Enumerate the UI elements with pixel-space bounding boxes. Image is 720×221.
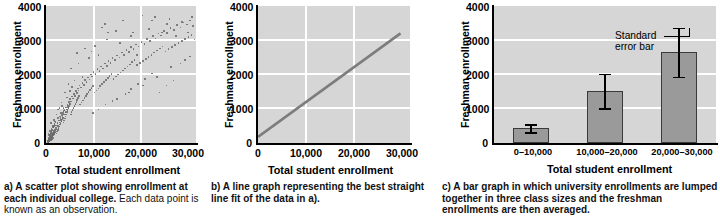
- scatter-point: [176, 24, 178, 26]
- scatter-point: [96, 90, 98, 92]
- scatter-point: [78, 63, 80, 65]
- scatter-point: [112, 57, 114, 59]
- scatter-point: [81, 102, 83, 104]
- scatter-point: [75, 103, 77, 105]
- scatter-point: [159, 92, 161, 94]
- scatter-point: [61, 120, 63, 122]
- scatter-point: [123, 54, 125, 56]
- scatter-point: [76, 99, 78, 101]
- scatter-point: [77, 97, 79, 99]
- panel-a-xtick-30000: 30,000: [164, 148, 212, 159]
- scatter-point: [107, 77, 109, 79]
- scatter-point: [68, 107, 70, 109]
- scatter-point: [124, 68, 126, 70]
- scatter-point: [103, 81, 105, 83]
- scatter-point: [137, 83, 139, 85]
- scatter-point: [192, 25, 194, 27]
- panel-b-xtick-20000: 20,000: [330, 148, 378, 159]
- scatter-point: [63, 122, 65, 124]
- scatter-point: [53, 130, 55, 132]
- scatter-point: [121, 52, 123, 54]
- scatter-point: [50, 122, 52, 124]
- scatter-point: [188, 36, 190, 38]
- scatter-point: [54, 133, 56, 135]
- error-bar-cap-1-bottom: [599, 108, 611, 110]
- panel-b-plot-area: [258, 6, 410, 143]
- panel-b-y-axis-line: [256, 5, 258, 145]
- panel-b-caption: b) A line graph representing the best st…: [211, 181, 433, 204]
- panel-a-xtick-20000: 20,000: [117, 148, 165, 159]
- scatter-point: [69, 98, 71, 100]
- panel-c-ytick-2000: 2000: [466, 70, 488, 80]
- scatter-point: [79, 104, 81, 106]
- scatter-point: [69, 103, 71, 105]
- scatter-point: [106, 65, 108, 67]
- scatter-point: [59, 107, 61, 109]
- scatter-point: [116, 55, 118, 57]
- scatter-point: [159, 48, 161, 50]
- scatter-point: [97, 68, 99, 70]
- panel-a-ytick-1000: 1000: [18, 104, 40, 114]
- scatter-point: [142, 15, 144, 17]
- panel-c-xtick-2: 20,000–30,000: [643, 147, 720, 158]
- scatter-point: [80, 87, 82, 89]
- scatter-point: [110, 62, 112, 64]
- scatter-point: [119, 42, 121, 44]
- scatter-point: [175, 35, 177, 37]
- scatter-point: [71, 111, 73, 113]
- scatter-point: [74, 80, 76, 82]
- panel-a-xtick-10000: 10,000: [70, 148, 118, 159]
- scatter-point: [78, 90, 80, 92]
- scatter-point: [61, 102, 63, 104]
- panel-c-xtick-0: 0–10,000: [500, 147, 566, 158]
- scatter-point: [94, 92, 96, 94]
- scatter-point: [166, 23, 168, 25]
- panel-a-ytick-2000: 2000: [18, 70, 40, 80]
- scatter-point: [64, 92, 66, 94]
- scatter-point: [106, 39, 108, 41]
- scatter-point: [70, 101, 72, 103]
- scatter-point: [65, 114, 67, 116]
- scatter-point: [101, 27, 103, 29]
- scatter-point: [113, 78, 115, 80]
- scatter-point: [94, 45, 96, 47]
- scatter-point: [132, 32, 134, 34]
- scatter-point: [102, 68, 104, 70]
- scatter-point: [104, 23, 106, 25]
- scatter-point: [107, 32, 109, 34]
- panel-b-ytick-3000: 3000: [230, 36, 252, 46]
- panel-a-caption: a) A scatter plot showing enrollment at …: [4, 181, 204, 216]
- scatter-point: [60, 112, 62, 114]
- error-bar-cap-0-bottom: [525, 132, 537, 134]
- scatter-point: [163, 30, 165, 32]
- scatter-point: [148, 28, 150, 30]
- scatter-point: [184, 38, 186, 40]
- standard-error-bar-annotation: Standard error bar: [615, 30, 656, 53]
- scatter-point: [151, 20, 153, 22]
- scatter-point: [156, 50, 158, 52]
- scatter-point: [174, 44, 176, 46]
- scatter-point: [128, 51, 130, 53]
- scatter-point: [178, 42, 180, 44]
- scatter-point: [92, 85, 94, 87]
- panel-c-plot-area: [494, 6, 716, 143]
- scatter-point: [100, 66, 102, 68]
- scatter-point: [133, 48, 135, 50]
- error-bar-cap-2-bottom: [673, 77, 685, 79]
- scatter-point: [70, 68, 72, 70]
- scatter-point: [161, 32, 163, 34]
- scatter-point: [115, 76, 117, 78]
- scatter-point: [191, 16, 193, 18]
- scatter-point: [72, 98, 74, 100]
- scatter-point: [141, 41, 143, 43]
- panel-b-ytick-2000: 2000: [230, 70, 252, 80]
- panel-c-bar-graph: Freshman enrollment 4000 3000 2000 1000 …: [440, 0, 720, 221]
- panel-c-x-axis-label: Total student enrollment: [522, 163, 697, 175]
- scatter-point: [101, 83, 103, 85]
- panel-b-xtick-30000: 30,000: [378, 148, 426, 159]
- scatter-point: [160, 35, 162, 37]
- panel-c-caption-lead: c) A bar graph in which university enrol…: [442, 181, 717, 215]
- scatter-point: [98, 88, 100, 90]
- scatter-point: [99, 85, 101, 87]
- scatter-point: [184, 59, 186, 61]
